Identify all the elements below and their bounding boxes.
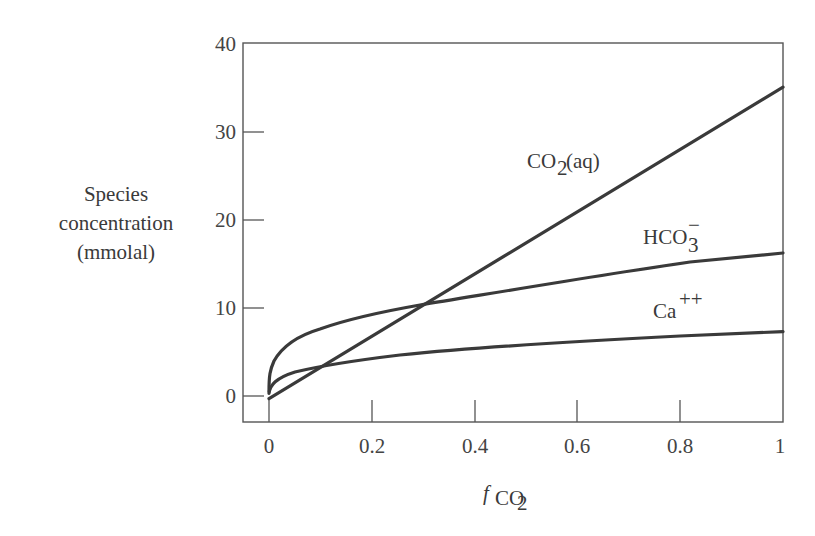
y-tick-30: 30 [215,120,236,144]
x-label-sub2: 2 [517,491,528,515]
x-axis: 0 0.2 0.4 0.6 0.8 1 [264,400,786,458]
svg-text:++: ++ [679,287,703,311]
chart: 0 10 20 30 40 0 0.2 0.4 0.6 0.8 1 f CO 2… [0,0,815,536]
svg-text:CO: CO [527,149,556,173]
svg-text:HCO: HCO [643,225,687,249]
x-label-f: f [483,481,492,505]
label-co2aq: CO 2 (aq) [527,149,600,180]
y-tick-20: 20 [215,208,236,232]
svg-text:Ca: Ca [653,299,677,323]
series-hco3 [269,253,783,392]
x-tick-0.6: 0.6 [564,434,590,458]
x-tick-0.4: 0.4 [462,434,489,458]
x-tick-1: 1 [775,434,786,458]
series-ca [269,332,783,394]
y-tick-0: 0 [226,384,237,408]
svg-text:−: − [688,213,700,237]
x-tick-0: 0 [264,434,275,458]
svg-text:(aq): (aq) [566,149,600,173]
y-tick-40: 40 [215,32,236,56]
x-tick-0.2: 0.2 [359,434,385,458]
x-tick-0.8: 0.8 [667,434,693,458]
label-ca: Ca ++ [653,287,703,323]
label-hco3: HCO 3 − [643,213,700,257]
series-co2aq [269,87,783,399]
y-tick-10: 10 [215,296,236,320]
y-axis: 0 10 20 30 40 [215,32,264,408]
x-axis-label: f CO 2 [483,481,528,515]
